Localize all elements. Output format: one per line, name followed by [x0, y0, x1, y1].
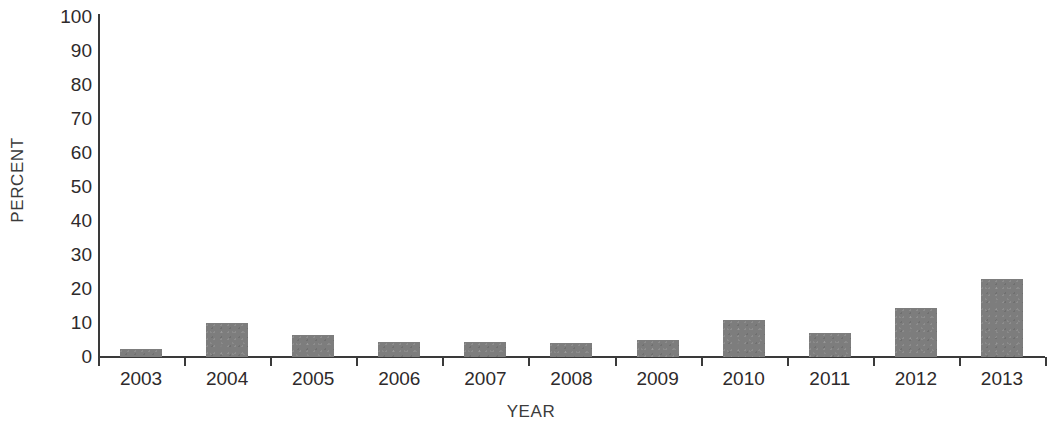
bar-2009 — [637, 340, 679, 357]
bar-band — [873, 17, 959, 357]
x-axis-tick — [356, 357, 358, 366]
bar-band — [356, 17, 442, 357]
bar-band — [528, 17, 614, 357]
bar-2011 — [809, 333, 851, 357]
x-axis-tick-label: 2006 — [378, 368, 420, 390]
bar-band — [442, 17, 528, 357]
bar-band — [184, 17, 270, 357]
y-axis-tick-label: 50 — [36, 177, 92, 196]
x-axis-tick — [98, 357, 100, 366]
x-axis-tick-label: 2011 — [809, 368, 850, 390]
x-axis-tick — [442, 357, 444, 366]
bar-2013 — [981, 279, 1023, 357]
y-axis-tick-labels: 1009080706050403020100 — [30, 17, 92, 357]
bar-band — [270, 17, 356, 357]
y-axis-tick-label: 70 — [36, 109, 92, 128]
x-axis-tick-label: 2007 — [464, 368, 506, 390]
y-axis-tick-label: 0 — [36, 347, 92, 366]
x-axis-tick — [615, 357, 617, 366]
bar-band — [959, 17, 1045, 357]
y-axis-tick-label: 100 — [36, 7, 92, 26]
bar-2006 — [378, 342, 420, 357]
bar-2010 — [723, 320, 765, 357]
plot-area — [98, 17, 1045, 357]
bar-2004 — [206, 323, 248, 357]
y-axis-tick-label: 60 — [36, 143, 92, 162]
y-axis-tick-label: 30 — [36, 245, 92, 264]
x-axis-tick — [701, 357, 703, 366]
y-axis-tick-label: 10 — [36, 313, 92, 332]
x-axis-tick — [873, 357, 875, 366]
x-axis-tick-label: 2012 — [895, 368, 937, 390]
x-axis-tick-label: 2009 — [636, 368, 678, 390]
x-axis-tick-label: 2008 — [550, 368, 592, 390]
bar-band — [615, 17, 701, 357]
y-axis-tick-label: 20 — [36, 279, 92, 298]
bar-chart-figure: PERCENT 1009080706050403020100 200320042… — [0, 0, 1062, 431]
bar-2005 — [292, 335, 334, 357]
x-axis-tick-label: 2013 — [981, 368, 1023, 390]
x-axis-tick-label: 2003 — [120, 368, 162, 390]
y-axis-title-text: PERCENT — [8, 137, 28, 222]
bar-2008 — [550, 343, 592, 357]
bar-2003 — [120, 349, 162, 358]
bar-band — [787, 17, 873, 357]
bar-2012 — [895, 308, 937, 357]
bar-band — [701, 17, 787, 357]
x-axis-tick — [184, 357, 186, 366]
x-axis-tick — [787, 357, 789, 366]
y-axis-tick-label: 90 — [36, 41, 92, 60]
y-axis-tick-label: 80 — [36, 75, 92, 94]
x-axis-tick — [270, 357, 272, 366]
bar-2007 — [464, 342, 506, 357]
x-axis-tick — [1045, 357, 1047, 366]
x-axis-tick-label: 2004 — [206, 368, 248, 390]
x-axis-tick-label: 2010 — [723, 368, 765, 390]
x-axis-tick-label: 2005 — [292, 368, 334, 390]
bar-band — [98, 17, 184, 357]
y-axis-tick-label: 40 — [36, 211, 92, 230]
x-axis-tick — [959, 357, 961, 366]
x-axis-title: YEAR — [0, 402, 1062, 422]
x-axis-tick — [528, 357, 530, 366]
